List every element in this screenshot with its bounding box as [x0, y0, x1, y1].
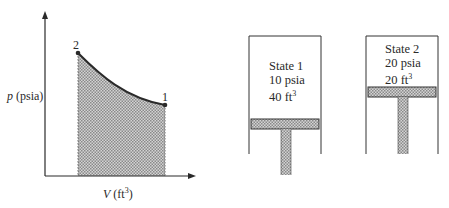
pv-diagram — [42, 11, 196, 179]
piston-1-head — [251, 119, 319, 129]
state-1-info: State 1 10 psia 40 ft3 — [269, 60, 305, 105]
x-axis-var: V — [103, 187, 110, 201]
state-2-pressure: 20 psia — [385, 57, 421, 71]
y-axis-unit: (psia) — [16, 89, 43, 103]
y-axis-var: p — [7, 89, 13, 103]
point-2-label: 2 — [73, 38, 79, 52]
state-1-volume-exp: 3 — [292, 89, 296, 98]
piston-2-rod — [398, 97, 408, 154]
state-1-volume-value: 40 ft — [269, 90, 292, 104]
point-1-label: 1 — [162, 90, 168, 104]
state-2-info: State 2 20 psia 20 ft3 — [385, 43, 421, 88]
piston-1-rod — [281, 129, 291, 175]
state-1-title: State 1 — [269, 60, 305, 74]
x-axis-label: V (ft3) — [103, 184, 133, 201]
state-1-volume: 40 ft3 — [269, 87, 305, 105]
y-axis-label: p (psia) — [7, 89, 43, 103]
x-axis-close: ) — [129, 187, 133, 201]
x-axis-unit: (ft — [113, 187, 124, 201]
diagram-canvas — [0, 0, 449, 208]
state-2-volume-value: 20 ft — [385, 73, 408, 87]
x-axis-arrow-icon — [188, 173, 196, 179]
y-axis-arrow-icon — [42, 11, 48, 19]
piston-2-head — [368, 87, 436, 97]
state-2-volume-exp: 3 — [408, 72, 412, 81]
state-1-pressure: 10 psia — [269, 74, 305, 88]
shaded-work-area — [78, 53, 165, 176]
state-2-title: State 2 — [385, 43, 421, 57]
state-2-volume: 20 ft3 — [385, 70, 421, 88]
cylinder-state-1 — [249, 36, 321, 175]
